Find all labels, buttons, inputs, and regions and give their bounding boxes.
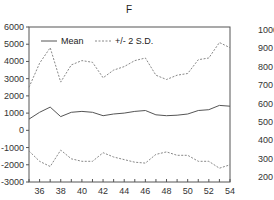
x-tick-label: 42 bbox=[98, 186, 108, 196]
legend: Mean +/- 2 S.D. bbox=[41, 36, 153, 46]
adjacent-y-tick-label: 700 bbox=[258, 80, 273, 90]
y-tick-label: -1000 bbox=[1, 143, 24, 153]
y-tick-label: -3000 bbox=[1, 177, 24, 187]
adjacent-y-tick-label: 400 bbox=[258, 135, 273, 145]
legend-sd-label: +/- 2 S.D. bbox=[115, 36, 153, 46]
y-tick-label: -2000 bbox=[1, 160, 24, 170]
adjacent-y-tick-label: 900 bbox=[258, 43, 273, 53]
adjacent-y-tick-label: 500 bbox=[258, 117, 273, 127]
plot-frame bbox=[29, 27, 230, 182]
adjacent-chart-y-axis: 1000900800700600500400300200 bbox=[258, 25, 274, 182]
adjacent-y-tick-label: 800 bbox=[258, 62, 273, 72]
x-tick-label: 52 bbox=[204, 186, 214, 196]
y-axis: 6000500040003000200010000-1000-2000-3000 bbox=[1, 22, 29, 187]
series-lower-band bbox=[29, 150, 230, 168]
series-mean bbox=[29, 105, 230, 119]
x-tick-label: 44 bbox=[119, 186, 129, 196]
x-tick-label: 46 bbox=[140, 186, 150, 196]
adjacent-y-tick-label: 200 bbox=[258, 172, 273, 182]
chart: F 6000500040003000200010000-1000-2000-30… bbox=[0, 0, 274, 200]
plot-lines bbox=[29, 43, 230, 169]
legend-mean-label: Mean bbox=[61, 36, 84, 46]
series-upper-band bbox=[29, 43, 230, 88]
y-tick-label: 4000 bbox=[4, 56, 24, 66]
chart-title: F bbox=[126, 4, 132, 15]
x-tick-label: 54 bbox=[225, 186, 235, 196]
y-tick-label: 2000 bbox=[4, 91, 24, 101]
x-tick-label: 48 bbox=[162, 186, 172, 196]
x-tick-label: 38 bbox=[56, 186, 66, 196]
y-tick-label: 6000 bbox=[4, 22, 24, 32]
x-tick-label: 40 bbox=[77, 186, 87, 196]
adjacent-y-tick-label: 1000 bbox=[258, 25, 274, 35]
x-tick-label: 36 bbox=[35, 186, 45, 196]
y-tick-label: 1000 bbox=[4, 108, 24, 118]
adjacent-y-tick-label: 300 bbox=[258, 154, 273, 164]
y-tick-label: 5000 bbox=[4, 39, 24, 49]
adjacent-y-tick-label: 600 bbox=[258, 99, 273, 109]
y-tick-label: 3000 bbox=[4, 74, 24, 84]
x-tick-label: 50 bbox=[183, 186, 193, 196]
y-tick-label: 0 bbox=[19, 125, 24, 135]
